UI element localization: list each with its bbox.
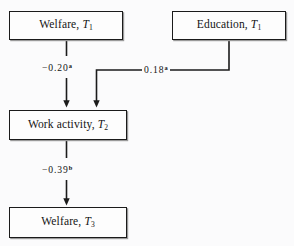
node-welfare-t3-sub: 3: [91, 220, 95, 229]
node-education-t1-label: Education, T1: [197, 19, 261, 32]
node-welfare-t1-sub: 1: [89, 23, 93, 32]
node-welfare-t3: Welfare, T3: [9, 207, 127, 238]
node-education-t1-text: Education,: [197, 18, 248, 30]
path-diagram-figure: Welfare, T1 Education, T1 Work activity,…: [0, 0, 294, 246]
node-work-activity-t2-text: Work activity,: [28, 118, 95, 130]
node-work-activity-t2-label: Work activity, T2: [28, 119, 108, 132]
node-welfare-t3-text: Welfare,: [41, 215, 81, 227]
edge-label-education-to-work-note: a: [164, 64, 167, 71]
node-welfare-t1-text: Welfare,: [39, 18, 79, 30]
edge-label-welfare-to-work-note: a: [69, 62, 72, 69]
edge-label-education-to-work: 0.18a: [142, 64, 170, 75]
node-work-activity-t2: Work activity, T2: [9, 110, 127, 140]
edge-label-welfare-to-work-value: −0.20: [42, 62, 69, 73]
edge-label-work-to-welfare-value: −0.39: [42, 164, 69, 175]
node-welfare-t3-label: Welfare, T3: [41, 216, 95, 229]
node-welfare-t1: Welfare, T1: [9, 11, 123, 40]
edge-label-welfare-to-work: −0.20a: [42, 62, 72, 73]
node-work-activity-t2-sub: 2: [104, 123, 108, 132]
node-education-t1-sub: 1: [257, 23, 261, 32]
node-welfare-t1-label: Welfare, T1: [39, 19, 93, 32]
node-education-t1: Education, T1: [172, 11, 286, 40]
edge-label-work-to-welfare: −0.39b: [42, 164, 72, 175]
edge-label-work-to-welfare-note: b: [69, 164, 73, 171]
edge-label-education-to-work-value: 0.18: [144, 64, 164, 75]
